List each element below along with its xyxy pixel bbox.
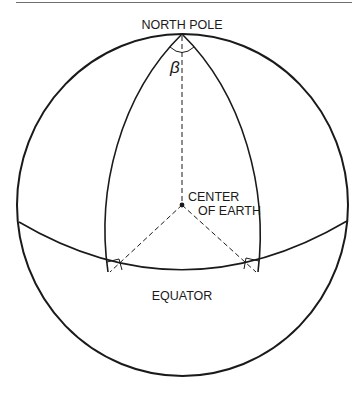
north-pole-label: NORTH POLE <box>141 18 222 32</box>
center-label-line1: CENTER <box>188 190 239 204</box>
center-label-line2: OF EARTH <box>198 204 261 218</box>
left-radius-dashed <box>110 205 182 272</box>
right-meridian <box>182 34 260 272</box>
center-point <box>180 203 185 208</box>
equator-label: EQUATOR <box>152 289 213 303</box>
equator-arc <box>19 221 347 270</box>
earth-diagram: NORTH POLE β CENTER OF EARTH EQUATOR <box>0 0 364 393</box>
beta-label: β <box>169 58 180 77</box>
